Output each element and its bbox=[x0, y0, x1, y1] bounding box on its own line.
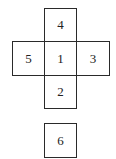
face-right: 3 bbox=[76, 41, 110, 76]
face-top: 4 bbox=[44, 8, 77, 42]
face-detached: 6 bbox=[44, 123, 77, 158]
face-bottom: 2 bbox=[44, 75, 77, 109]
face-left: 5 bbox=[12, 41, 45, 76]
face-center: 1 bbox=[44, 41, 77, 76]
